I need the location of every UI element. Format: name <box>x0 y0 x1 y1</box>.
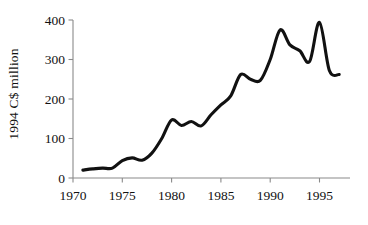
chart-container: 1994 C$ million 010020030040019701975198… <box>0 0 368 225</box>
x-tick-label: 1990 <box>257 188 284 203</box>
x-tick-label: 1970 <box>60 188 87 203</box>
y-tick-label: 400 <box>45 13 66 28</box>
y-tick-label: 0 <box>58 171 65 186</box>
y-tick-label: 200 <box>45 92 66 107</box>
x-tick-label: 1980 <box>158 188 185 203</box>
x-tick-label: 1975 <box>109 188 136 203</box>
series-line-0 <box>83 22 339 170</box>
line-chart-plot: 0100200300400197019751980198519901995 <box>0 0 368 225</box>
x-tick-label: 1995 <box>306 188 333 203</box>
axes-layer: 0100200300400197019751980198519901995 <box>45 13 350 203</box>
y-tick-label: 300 <box>45 52 66 67</box>
y-tick-label: 100 <box>45 131 66 146</box>
series-layer <box>83 22 339 170</box>
x-tick-label: 1985 <box>207 188 234 203</box>
